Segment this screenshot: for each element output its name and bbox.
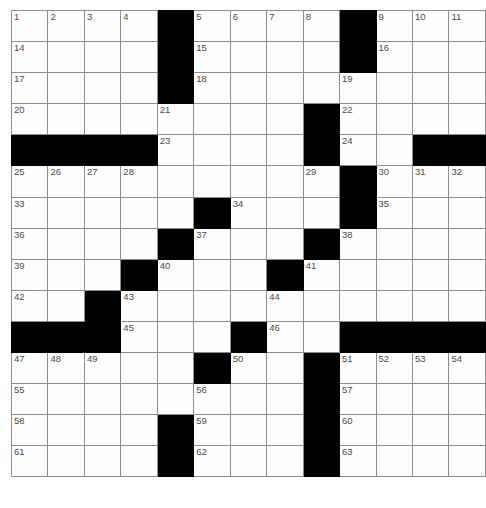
numbered-cell[interactable]: 22: [340, 104, 376, 135]
letter-cell[interactable]: [449, 42, 486, 73]
numbered-cell[interactable]: 46: [267, 321, 303, 352]
letter-cell[interactable]: [84, 384, 120, 415]
letter-cell[interactable]: [267, 42, 303, 73]
letter-cell[interactable]: [412, 197, 448, 228]
letter-cell[interactable]: [84, 197, 120, 228]
letter-cell[interactable]: [267, 197, 303, 228]
letter-cell[interactable]: [194, 290, 230, 321]
numbered-cell[interactable]: 49: [84, 353, 120, 384]
letter-cell[interactable]: [194, 135, 230, 166]
letter-cell[interactable]: [157, 321, 193, 352]
letter-cell[interactable]: [449, 104, 486, 135]
numbered-cell[interactable]: 1: [12, 11, 48, 42]
letter-cell[interactable]: [267, 353, 303, 384]
letter-cell[interactable]: [267, 228, 303, 259]
numbered-cell[interactable]: 20: [12, 104, 48, 135]
letter-cell[interactable]: [303, 197, 339, 228]
letter-cell[interactable]: [412, 73, 448, 104]
numbered-cell[interactable]: 6: [230, 11, 266, 42]
letter-cell[interactable]: [230, 415, 266, 446]
numbered-cell[interactable]: 48: [48, 353, 84, 384]
crossword-grid[interactable]: 1234567891011141516171819202122232425262…: [11, 10, 486, 477]
letter-cell[interactable]: [48, 384, 84, 415]
numbered-cell[interactable]: 39: [12, 259, 48, 290]
numbered-cell[interactable]: 21: [157, 104, 193, 135]
letter-cell[interactable]: [412, 290, 448, 321]
letter-cell[interactable]: [340, 259, 376, 290]
letter-cell[interactable]: [230, 73, 266, 104]
letter-cell[interactable]: [303, 290, 339, 321]
numbered-cell[interactable]: 31: [412, 166, 448, 197]
letter-cell[interactable]: [84, 446, 120, 477]
numbered-cell[interactable]: 25: [12, 166, 48, 197]
numbered-cell[interactable]: 40: [157, 259, 193, 290]
letter-cell[interactable]: [267, 166, 303, 197]
numbered-cell[interactable]: 43: [121, 290, 157, 321]
numbered-cell[interactable]: 55: [12, 384, 48, 415]
letter-cell[interactable]: [412, 415, 448, 446]
letter-cell[interactable]: [121, 104, 157, 135]
letter-cell[interactable]: [84, 415, 120, 446]
letter-cell[interactable]: [267, 73, 303, 104]
letter-cell[interactable]: [121, 228, 157, 259]
letter-cell[interactable]: [157, 290, 193, 321]
numbered-cell[interactable]: 62: [194, 446, 230, 477]
numbered-cell[interactable]: 29: [303, 166, 339, 197]
letter-cell[interactable]: [376, 415, 412, 446]
letter-cell[interactable]: [230, 42, 266, 73]
numbered-cell[interactable]: 11: [449, 11, 486, 42]
numbered-cell[interactable]: 52: [376, 353, 412, 384]
letter-cell[interactable]: [303, 42, 339, 73]
numbered-cell[interactable]: 5: [194, 11, 230, 42]
letter-cell[interactable]: [194, 166, 230, 197]
numbered-cell[interactable]: 45: [121, 321, 157, 352]
letter-cell[interactable]: [84, 104, 120, 135]
numbered-cell[interactable]: 56: [194, 384, 230, 415]
letter-cell[interactable]: [267, 104, 303, 135]
numbered-cell[interactable]: 16: [376, 42, 412, 73]
numbered-cell[interactable]: 27: [84, 166, 120, 197]
letter-cell[interactable]: [412, 384, 448, 415]
letter-cell[interactable]: [121, 197, 157, 228]
numbered-cell[interactable]: 57: [340, 384, 376, 415]
numbered-cell[interactable]: 33: [12, 197, 48, 228]
letter-cell[interactable]: [121, 73, 157, 104]
numbered-cell[interactable]: 60: [340, 415, 376, 446]
letter-cell[interactable]: [376, 73, 412, 104]
letter-cell[interactable]: [449, 290, 486, 321]
letter-cell[interactable]: [376, 259, 412, 290]
numbered-cell[interactable]: 8: [303, 11, 339, 42]
letter-cell[interactable]: [376, 290, 412, 321]
numbered-cell[interactable]: 4: [121, 11, 157, 42]
numbered-cell[interactable]: 53: [412, 353, 448, 384]
letter-cell[interactable]: [230, 135, 266, 166]
numbered-cell[interactable]: 59: [194, 415, 230, 446]
numbered-cell[interactable]: 19: [340, 73, 376, 104]
letter-cell[interactable]: [340, 290, 376, 321]
letter-cell[interactable]: [412, 104, 448, 135]
letter-cell[interactable]: [267, 135, 303, 166]
letter-cell[interactable]: [412, 446, 448, 477]
numbered-cell[interactable]: 18: [194, 73, 230, 104]
letter-cell[interactable]: [230, 290, 266, 321]
letter-cell[interactable]: [376, 384, 412, 415]
letter-cell[interactable]: [230, 166, 266, 197]
letter-cell[interactable]: [48, 446, 84, 477]
numbered-cell[interactable]: 3: [84, 11, 120, 42]
letter-cell[interactable]: [449, 259, 486, 290]
numbered-cell[interactable]: 63: [340, 446, 376, 477]
letter-cell[interactable]: [121, 415, 157, 446]
numbered-cell[interactable]: 10: [412, 11, 448, 42]
numbered-cell[interactable]: 47: [12, 353, 48, 384]
letter-cell[interactable]: [449, 228, 486, 259]
letter-cell[interactable]: [267, 446, 303, 477]
letter-cell[interactable]: [412, 259, 448, 290]
numbered-cell[interactable]: 50: [230, 353, 266, 384]
numbered-cell[interactable]: 28: [121, 166, 157, 197]
letter-cell[interactable]: [48, 197, 84, 228]
numbered-cell[interactable]: 14: [12, 42, 48, 73]
letter-cell[interactable]: [84, 42, 120, 73]
letter-cell[interactable]: [84, 73, 120, 104]
numbered-cell[interactable]: 17: [12, 73, 48, 104]
numbered-cell[interactable]: 2: [48, 11, 84, 42]
